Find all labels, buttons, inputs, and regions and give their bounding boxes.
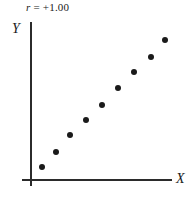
data-point <box>53 149 59 155</box>
data-point <box>115 85 121 91</box>
data-point <box>39 164 45 170</box>
data-point <box>162 37 168 43</box>
x-axis-line <box>22 179 172 181</box>
y-axis-line <box>30 22 32 186</box>
data-point <box>148 54 154 60</box>
plot-area <box>0 0 194 202</box>
x-axis-label: X <box>176 172 185 186</box>
data-point <box>67 132 73 138</box>
scatter-plot-figure: r = +1.00 Y X <box>0 0 194 202</box>
y-axis-label: Y <box>12 22 20 36</box>
data-point <box>131 69 137 75</box>
data-point <box>83 117 89 123</box>
data-point <box>99 102 105 108</box>
